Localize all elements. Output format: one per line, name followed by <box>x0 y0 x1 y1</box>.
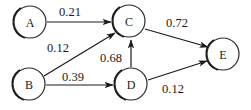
graph-diagram: ABCDE 0.210.120.390.680.720.12 <box>0 0 251 110</box>
edge-weight-label: 0.12 <box>162 82 184 96</box>
node-label: E <box>219 48 226 62</box>
edge-d-to-e <box>148 61 207 80</box>
edge-line <box>145 29 208 47</box>
edge-weight-label: 0.72 <box>166 16 188 30</box>
edge-weight-label: 0.12 <box>47 41 69 55</box>
node-label: C <box>125 15 133 29</box>
node-d[interactable]: D <box>115 68 147 100</box>
node-label: D <box>127 78 136 92</box>
node-label: A <box>26 16 35 30</box>
graph-canvas: ABCDE 0.210.120.390.680.720.12 <box>0 0 251 110</box>
edge-weight-label: 0.21 <box>59 5 81 19</box>
edge-c-to-e <box>145 29 208 47</box>
node-a[interactable]: A <box>14 6 46 38</box>
node-e[interactable]: E <box>207 38 239 70</box>
edge-line <box>148 61 207 80</box>
node-label: B <box>25 78 33 92</box>
node-c[interactable]: C <box>113 5 145 37</box>
node-b[interactable]: B <box>13 68 45 100</box>
edge-weight-label: 0.39 <box>62 70 84 84</box>
edge-weight-label: 0.68 <box>100 51 122 65</box>
